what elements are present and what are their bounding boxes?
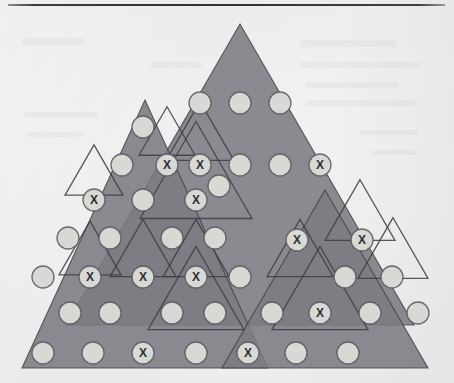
lattice-site-marked: X [189,154,211,176]
x-marker-icon: X [139,270,147,284]
x-marker-icon: X [90,193,98,207]
lattice-site-plain [229,92,251,114]
lattice-site-marked: X [309,302,331,324]
site-circle [132,116,154,138]
lattice-site-marked: X [185,189,207,211]
x-marker-icon: X [244,346,252,360]
x-marker-icon: X [163,158,171,172]
site-circle [261,302,283,324]
lattice-site-marked: X [237,342,259,364]
lattice-site-marked: X [351,229,373,251]
site-circle [269,92,291,114]
site-circle [204,227,226,249]
figure-page: XXXXXXXXXXXXX [0,0,454,383]
lattice-site-plain [285,342,307,364]
site-circle [381,266,403,288]
site-circle [161,227,183,249]
lattice-site-marked: X [286,229,308,251]
lattice-site-plain [161,302,183,324]
site-circle [204,302,226,324]
lattice-site-plain [99,227,121,249]
lattice-site-plain [407,302,429,324]
site-circle [132,189,154,211]
lattice-site-plain [99,302,121,324]
x-marker-icon: X [192,270,200,284]
lattice-site-plain [269,92,291,114]
lattice-site-plain [111,154,133,176]
lattice-site-marked: X [309,154,331,176]
site-circle [359,302,381,324]
site-circle [32,342,54,364]
site-circle [285,342,307,364]
lattice-site-plain [82,342,104,364]
site-circle [82,342,104,364]
x-marker-icon: X [192,193,200,207]
x-marker-icon: X [139,346,147,360]
site-circle [337,342,359,364]
site-circle [185,342,207,364]
lattice-site-plain [59,302,81,324]
site-circle [229,266,251,288]
site-circle [189,92,211,114]
triangular-lattice-figure: XXXXXXXXXXXXX [0,0,454,383]
lattice-site-marked: X [185,266,207,288]
lattice-site-plain [337,342,359,364]
lattice-site-plain [229,154,251,176]
lattice-site-plain [32,342,54,364]
lattice-site-plain [208,175,230,197]
site-circle [59,302,81,324]
site-circle [111,154,133,176]
x-marker-icon: X [293,233,301,247]
site-circle [229,154,251,176]
lattice-site-plain [32,266,54,288]
site-circle [99,227,121,249]
site-circle [334,266,356,288]
site-circle [407,302,429,324]
x-marker-icon: X [86,270,94,284]
lattice-site-plain [381,266,403,288]
lattice-site-plain [132,189,154,211]
site-circle [269,154,291,176]
x-marker-icon: X [358,233,366,247]
site-circle [57,227,79,249]
lattice-site-plain [359,302,381,324]
lattice-site-plain [161,227,183,249]
lattice-site-plain [269,154,291,176]
x-marker-icon: X [316,158,324,172]
lattice-site-marked: X [83,189,105,211]
lattice-site-plain [261,302,283,324]
site-circle [161,302,183,324]
x-marker-icon: X [316,306,324,320]
site-circle [99,302,121,324]
lattice-site-plain [132,116,154,138]
lattice-site-plain [189,92,211,114]
site-circle [208,175,230,197]
lattice-site-plain [334,266,356,288]
site-circle [32,266,54,288]
lattice-site-plain [229,266,251,288]
lattice-site-plain [185,342,207,364]
lattice-site-marked: X [156,154,178,176]
lattice-site-plain [204,227,226,249]
lattice-site-marked: X [132,266,154,288]
site-circle [229,92,251,114]
lattice-site-marked: X [132,342,154,364]
lattice-site-plain [57,227,79,249]
x-marker-icon: X [196,158,204,172]
lattice-site-plain [204,302,226,324]
lattice-site-marked: X [79,266,101,288]
